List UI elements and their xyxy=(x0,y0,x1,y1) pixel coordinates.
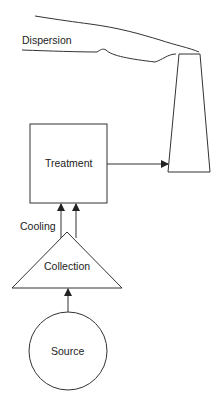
dispersion-label: Dispersion xyxy=(22,34,72,46)
treatment-label: Treatment xyxy=(45,157,92,169)
plume-bottom-line xyxy=(22,49,176,62)
collection-label: Collection xyxy=(44,260,90,272)
chimney-stack xyxy=(168,54,210,172)
diagram-canvas xyxy=(0,0,221,403)
cooling-label: Cooling xyxy=(20,220,56,232)
source-label: Source xyxy=(51,345,84,357)
